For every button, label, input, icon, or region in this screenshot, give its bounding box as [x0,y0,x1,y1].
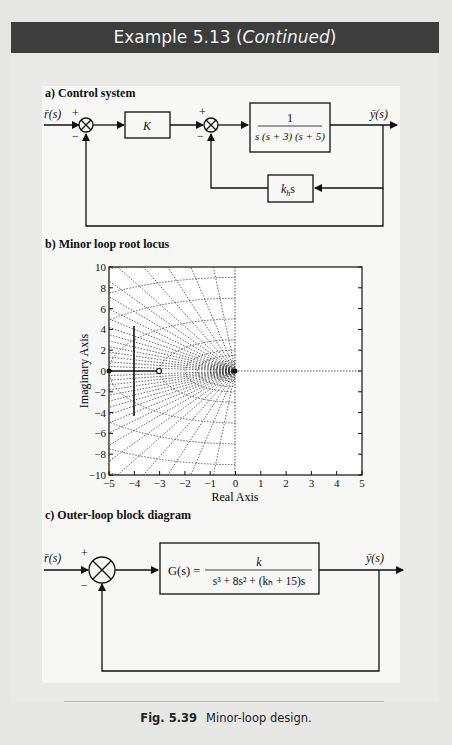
root-locus-plot: −5−4−3−2−10123451086420−2−4−6−8−10 Real … [0,236,365,506]
svg-text:−4: −4 [94,407,106,419]
svg-text:0: 0 [101,365,107,377]
svg-text:2: 2 [101,344,107,356]
g-lhs: G(s) = [168,564,200,578]
svg-text:0: 0 [233,477,239,489]
svg-text:−3: −3 [154,477,166,489]
svg-text:−1: −1 [204,477,216,489]
plant-numerator: 1 [287,111,293,125]
svg-text:2: 2 [283,477,289,489]
output-signal-label: ȳ(s) [369,107,388,121]
sum-minus: − [81,578,88,592]
svg-text:−4: −4 [128,477,140,489]
control-system-diagram [44,103,397,226]
svg-text:−8: −8 [94,448,106,460]
svg-text:−6: −6 [94,427,106,439]
sum2-minus: − [197,129,204,143]
sum1-plus: + [72,106,79,120]
svg-text:6: 6 [101,303,107,315]
feedback-label: khs [281,182,295,198]
sum-plus: + [81,546,88,560]
y-axis-label: Imaginary Axis [77,334,91,409]
svg-text:4: 4 [101,323,107,335]
figure-caption: Fig. 5.39Minor-loop design. [0,711,452,725]
outer-loop-diagram [44,543,403,671]
caption-text: Minor-loop design. [206,711,312,725]
zero-marker [157,369,162,374]
input-signal-label: r̄(s) [44,107,61,121]
input-signal-label: r̄(s) [44,551,61,565]
x-axis-label: Real Axis [212,490,259,504]
g-denominator: s³ + 8s² + (kₕ + 15)s [213,575,306,588]
pole-marker [233,369,238,374]
svg-text:10: 10 [95,261,107,273]
svg-text:1: 1 [258,477,264,489]
svg-text:−2: −2 [94,386,106,398]
figure-number: Fig. 5.39 [140,711,197,725]
caption-rule [64,701,384,702]
diagram-canvas: r̄(s) + − + − K 1 s (s + 3) (s + 5) ȳ(s)… [0,0,452,745]
sum2-plus: + [199,105,206,119]
g-numerator: k [256,555,262,569]
output-signal-label: ȳ(s) [365,551,384,565]
svg-text:4: 4 [334,477,340,489]
gain-label: K [142,119,152,133]
svg-text:5: 5 [359,477,365,489]
sum1-minus: − [72,129,79,143]
svg-text:−10: −10 [89,469,107,481]
svg-text:−2: −2 [179,477,191,489]
svg-text:8: 8 [101,282,107,294]
plant-denominator: s (s + 3) (s + 5) [255,130,325,143]
svg-text:3: 3 [309,477,315,489]
